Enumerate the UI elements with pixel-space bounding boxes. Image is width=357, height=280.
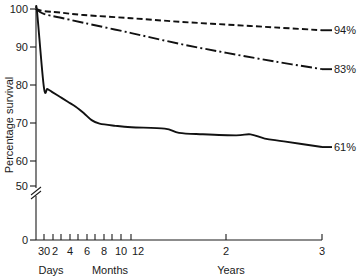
x-tick-label-year-2: 2 xyxy=(223,245,229,257)
y-tick-label-80: 80 xyxy=(16,79,28,91)
x-tick-label-month-6: 6 xyxy=(84,245,90,257)
series-line-upper xyxy=(36,9,322,30)
y-tick-label-60: 60 xyxy=(16,155,28,167)
endpoint-label-83: 83% xyxy=(334,63,356,75)
x-tick-label-month-10: 10 xyxy=(115,245,127,257)
x-tick-label-days-30: 30 xyxy=(38,245,50,257)
chart-canvas: Percentage survival 100 90 80 70 60 50 0 xyxy=(0,0,357,280)
x-axis-caption-days: Days xyxy=(38,264,64,276)
survival-chart: Percentage survival 100 90 80 70 60 50 0 xyxy=(0,0,357,280)
x-axis-caption-years: Years xyxy=(217,264,245,276)
y-tick-label-90: 90 xyxy=(16,41,28,53)
endpoint-label-61: 61% xyxy=(334,141,356,153)
x-tick-label-month-2: 2 xyxy=(52,245,58,257)
x-tick-label-month-8: 8 xyxy=(101,245,107,257)
x-tick-label-month-4: 4 xyxy=(67,245,73,257)
y-tick-marks xyxy=(30,9,36,240)
y-tick-label-0: 0 xyxy=(22,234,28,246)
x-tick-label-year-3: 3 xyxy=(319,245,325,257)
x-tick-label-month-12: 12 xyxy=(132,245,144,257)
endpoint-label-94: 94% xyxy=(334,24,356,36)
y-tick-label-70: 70 xyxy=(16,117,28,129)
x-axis-caption-months: Months xyxy=(92,264,129,276)
y-tick-label-50: 50 xyxy=(16,180,28,192)
y-axis-label: Percentage survival xyxy=(3,77,15,174)
series-line-middle xyxy=(36,9,322,69)
x-tick-marks xyxy=(44,234,322,240)
y-tick-label-100: 100 xyxy=(10,3,28,15)
